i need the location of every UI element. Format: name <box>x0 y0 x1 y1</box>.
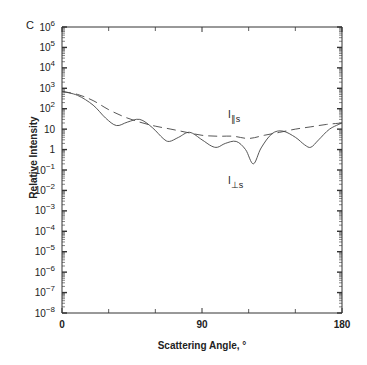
series-parallel-line <box>62 91 342 138</box>
y-tick-label: 1 <box>49 144 55 155</box>
y-tick-label: 10−8 <box>35 305 56 319</box>
annotation-parallel: I∥s <box>228 109 241 124</box>
x-tick-label: 90 <box>196 319 208 330</box>
x-axis-label: Scattering Angle, ° <box>62 340 342 351</box>
y-tick-label: 103 <box>39 80 55 94</box>
y-tick-label: 10 <box>44 124 56 135</box>
series-perpendicular-line <box>62 91 342 163</box>
y-tick-label: 10−7 <box>35 284 56 298</box>
y-tick-label: 102 <box>39 100 55 114</box>
y-tick-label: 105 <box>39 39 55 53</box>
y-tick-label: 106 <box>39 19 55 33</box>
x-tick-label: 0 <box>59 319 65 330</box>
y-axis-label: Relative Intensity <box>28 103 39 213</box>
y-axis-ticks: 10−810−710−610−510−410−310−210−111010210… <box>35 19 342 319</box>
annotation-perpendicular: I⊥s <box>228 175 244 190</box>
y-tick-label: 10−4 <box>35 223 56 237</box>
axes-frame <box>62 27 342 313</box>
chart-canvas: 10−810−710−610−510−410−310−210−111010210… <box>0 0 367 365</box>
x-tick-label: 180 <box>334 319 351 330</box>
series-layer <box>62 91 342 163</box>
series-annotations: I∥sI⊥s <box>228 109 244 190</box>
y-tick-label: 10−5 <box>35 243 56 257</box>
y-tick-label: 104 <box>39 59 55 73</box>
y-tick-label: 10−6 <box>35 264 56 278</box>
x-axis-ticks: 090180 <box>59 27 351 330</box>
